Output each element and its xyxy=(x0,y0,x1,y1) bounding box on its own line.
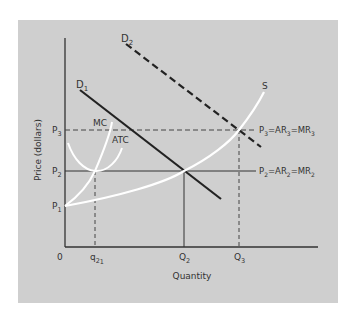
mc-label: MC xyxy=(93,118,107,128)
p3-label: P3 xyxy=(52,125,62,138)
demand-curve-d2 xyxy=(126,44,261,147)
p2-ar2-mr2-label: P2=AR2=MR2 xyxy=(259,166,315,178)
marginal-cost-curve xyxy=(65,122,112,206)
x-axis-title: Quantity xyxy=(173,271,213,281)
q21-label: q21 xyxy=(90,252,104,266)
p2-label: P2 xyxy=(52,166,62,179)
s-label: S xyxy=(262,81,268,91)
atc-label: ATC xyxy=(112,135,129,145)
origin-label: 0 xyxy=(57,252,63,262)
y-axis-title: Price (dollars) xyxy=(33,119,43,181)
demand-curve-d1 xyxy=(80,90,221,199)
p3-ar3-mr3-label: P3=AR3=MR3 xyxy=(259,125,315,137)
supply-demand-diagram: D2 D1 S MC ATC P3 P2 P1 0 q21 Q2 Q3 P3=A… xyxy=(0,0,355,319)
average-total-cost-curve xyxy=(68,143,122,171)
q2-label: Q2 xyxy=(179,252,190,265)
q3-label: Q3 xyxy=(234,252,245,265)
p1-label: P1 xyxy=(52,201,62,214)
